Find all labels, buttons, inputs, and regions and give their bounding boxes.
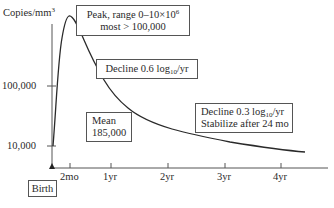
x-tick-label-1yr: 1yr — [103, 171, 117, 183]
x-tick-label-3yr: 3yr — [217, 171, 231, 183]
decline-slow-annotation-line1: Decline 0.3 log10/yr — [201, 106, 292, 118]
decline-fast-annotation-text: Decline 0.6 log10/yr — [97, 63, 197, 75]
y-tick-label-10000: 10,000 — [7, 140, 36, 152]
y-axis-title-text: Copies/mm — [3, 7, 51, 18]
mean-annotation-line2: 185,000 — [87, 127, 131, 139]
y-axis-title-sup: 3 — [51, 6, 55, 14]
x-tick-label-2yr: 2yr — [160, 171, 174, 183]
peak-annotation-line1: Peak, range 0–10×106 — [77, 9, 189, 21]
decline-slow-annotation-line2: Stabilize after 24 mo — [201, 118, 292, 130]
x-tick-label-2mo: 2mo — [60, 171, 79, 183]
birth-label: Birth — [29, 183, 56, 195]
birth-arrow-icon — [49, 163, 55, 169]
mean-annotation-box: Mean 185,000 — [86, 112, 132, 142]
y-axis-title: Copies/mm3 — [3, 7, 55, 19]
mean-annotation-line1: Mean — [87, 115, 131, 127]
decline-fast-annotation-box: Decline 0.6 log10/yr — [96, 59, 198, 79]
decline-slow-annotation-box: Decline 0.3 log10/yr Stabilize after 24 … — [195, 103, 293, 133]
birth-label-box: Birth — [28, 180, 57, 197]
peak-annotation-box: Peak, range 0–10×106 most > 100,000 — [76, 5, 190, 36]
y-tick-label-100000: 100,000 — [2, 80, 36, 92]
x-tick-label-4yr: 4yr — [273, 171, 287, 183]
peak-annotation-line2: most > 100,000 — [77, 21, 189, 33]
